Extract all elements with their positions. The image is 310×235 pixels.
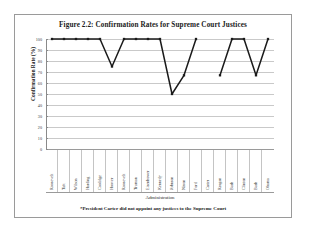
x-axis-category-cell: Ford [190,150,202,192]
y-axis-tick-label: 80 [38,59,42,64]
y-axis-tick-label: 30 [38,114,42,119]
data-point-marker [75,38,77,40]
y-axis-tick-label: 10 [38,136,42,141]
x-axis-category-cell: Kennedy [154,150,166,192]
data-point-marker [135,38,137,40]
data-point-marker [51,38,53,40]
y-axis-tick-mark [46,39,48,40]
x-axis-tick-label: Kennedy [156,175,161,190]
x-axis-category-cell: Harding [82,150,94,192]
y-axis-tick-label: 40 [38,103,42,108]
figure-footnote: *President Carter did not appoint any ju… [15,206,291,211]
x-axis-category-cell: Coolidge [94,150,106,192]
x-axis-tick-label: Roosevelt [120,174,125,190]
x-axis-category-cell: Eisenhower [142,150,154,192]
x-axis-tick-label: Johnson [168,177,173,190]
y-axis-tick-mark [46,50,48,51]
data-point-marker [267,38,269,40]
x-axis-tick-label: Eisenhower [144,171,149,190]
x-axis-title: Administration [46,195,274,200]
x-axis-category-cell: Clinton [238,150,250,192]
y-axis-tick-label: 50 [38,92,42,97]
x-axis-tick-label: Harding [84,177,89,190]
data-point-marker [63,38,65,40]
data-point-marker [195,38,197,40]
x-axis-tick-label: Carter [204,180,209,190]
x-axis-tick-label: Bush [252,182,257,190]
x-axis-tick-label: Nixon [180,180,185,190]
x-axis-tick-label: Reagan [216,178,221,190]
y-axis-tick-label: 100 [36,37,42,42]
x-axis-category-cell: Roosevelt [118,150,130,192]
x-axis-category-cell: Carter [202,150,214,192]
x-axis-tick-label: Taft [60,183,65,190]
x-axis-tick-label: Hoover [108,178,113,190]
data-point-marker [147,38,149,40]
y-axis-tick-mark [46,138,48,139]
x-axis-tick-label: Ford [192,182,197,190]
x-axis-tick-label: Bush [228,182,233,190]
data-point-marker [219,74,221,76]
data-point-marker [255,74,257,76]
data-point-marker [231,38,233,40]
y-axis-tick-mark [46,116,48,117]
x-axis-tick-label: Roosevelt [48,174,53,190]
y-axis-tick-label: 20 [38,125,42,130]
data-point-marker [123,38,125,40]
series-line [52,39,196,94]
confirmation-rate-series [46,39,274,149]
figure-frame: Figure 2.2: Confirmation Rates for Supre… [14,14,292,218]
x-axis-category-band: RooseveltTaftWilsonHardingCoolidgeHoover… [46,149,274,193]
data-point-marker [171,93,173,95]
data-point-marker [159,38,161,40]
y-axis-tick-label: 0 [40,147,42,152]
x-axis-tick-label: Clinton [240,178,245,190]
y-axis-tick-mark [46,149,48,150]
series-line [220,39,268,75]
y-axis-tick-mark [46,94,48,95]
data-point-marker [243,38,245,40]
x-axis-category-cell: Wilson [70,150,82,192]
x-axis-category-cell: Nixon [178,150,190,192]
y-axis-tick-label: 70 [38,70,42,75]
y-axis-tick-mark [46,61,48,62]
data-point-marker [87,38,89,40]
x-axis-category-cell: Roosevelt [46,150,58,192]
data-point-marker [111,65,113,67]
y-axis-tick-mark [46,83,48,84]
x-axis-tick-label: Wilson [72,178,77,190]
y-axis-tick-labels: 0102030405060708090100 [27,39,44,149]
data-point-marker [183,74,185,76]
x-axis-category-cell: Obama [262,150,274,192]
y-axis-tick-mark [46,72,48,73]
x-axis-category-cell: Reagan [214,150,226,192]
x-axis-category-cell: Hoover [106,150,118,192]
chart-title: Figure 2.2: Confirmation Rates for Supre… [15,21,291,29]
x-axis-category-cell: Bush [226,150,238,192]
y-axis-tick-mark [46,105,48,106]
y-axis-tick-label: 60 [38,81,42,86]
x-axis-tick-label: Coolidge [96,175,101,190]
y-axis-tick-mark [46,127,48,128]
x-axis-tick-label: Obama [265,178,270,190]
y-axis-tick-label: 90 [38,48,42,53]
data-point-marker [99,38,101,40]
x-axis-category-cell: Johnson [166,150,178,192]
x-axis-category-cell: Taft [58,150,70,192]
x-axis-tick-label: Truman [132,177,137,190]
x-axis-category-cell: Bush [250,150,262,192]
x-axis-category-cell: Truman [130,150,142,192]
